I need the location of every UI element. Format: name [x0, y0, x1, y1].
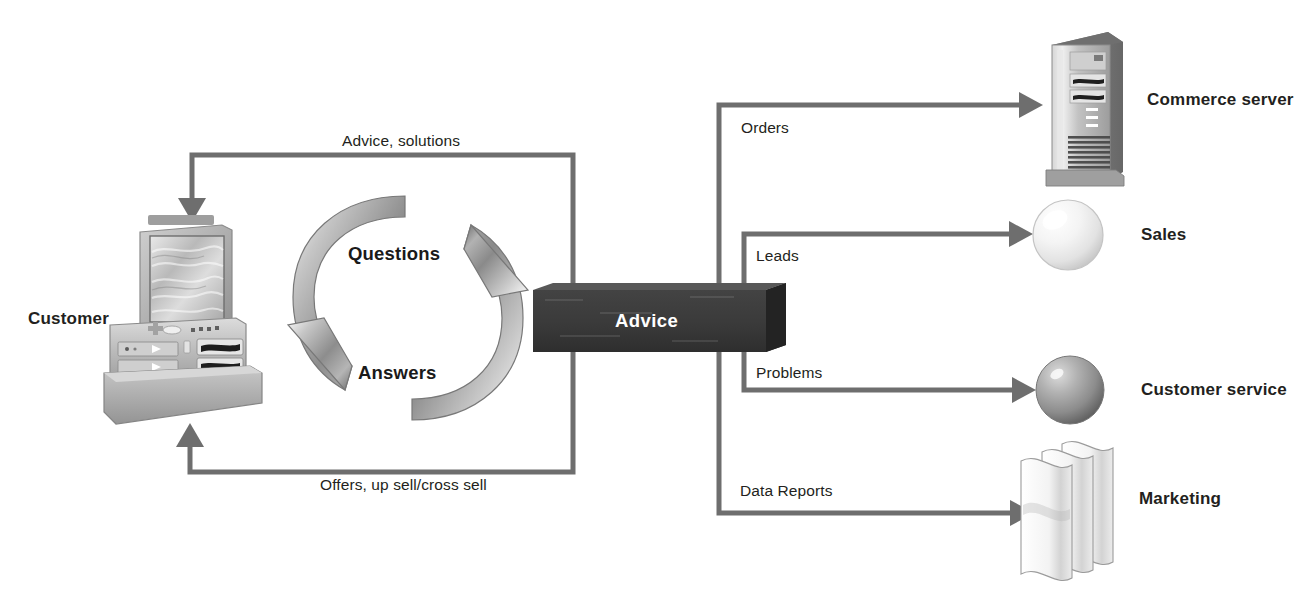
gray-sphere-icon — [1036, 356, 1104, 424]
actor-label-customer: Customer — [28, 310, 109, 327]
flow-label-advice-solutions: Advice, solutions — [342, 133, 460, 149]
flow-label-data-reports: Data Reports — [740, 483, 833, 499]
diagram-artwork — [0, 0, 1303, 592]
flow-line-advice-solutions — [178, 155, 573, 287]
server-tower-icon — [1046, 32, 1124, 186]
node-label-sales: Sales — [1141, 226, 1186, 243]
circular-arrows-icon — [288, 196, 528, 420]
light-sphere-icon — [1033, 200, 1103, 270]
node-label-marketing: Marketing — [1139, 490, 1221, 507]
document-stack-icon — [1021, 442, 1113, 581]
flow-label-leads: Leads — [756, 248, 799, 264]
flow-label-problems: Problems — [756, 365, 822, 381]
flow-label-offers: Offers, up sell/cross sell — [320, 477, 487, 493]
flow-label-orders: Orders — [741, 120, 789, 136]
node-label-commerce-server: Commerce server — [1147, 91, 1294, 108]
node-label-customer-service: Customer service — [1141, 381, 1287, 398]
diagram-canvas: Customer Questions Answers Advice Advice… — [0, 0, 1303, 592]
cycle-label-questions: Questions — [348, 245, 440, 264]
desktop-computer-icon — [104, 215, 262, 424]
advice-box-label: Advice — [615, 312, 678, 331]
cycle-label-answers: Answers — [358, 364, 437, 383]
